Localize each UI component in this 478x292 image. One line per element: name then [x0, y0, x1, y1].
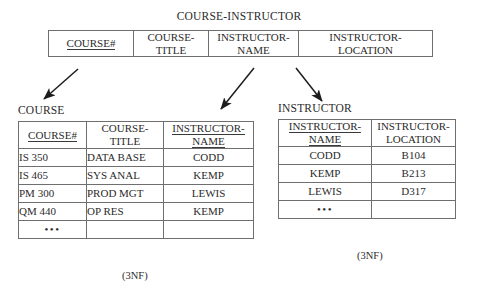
table-row-ellipsis: ••• [19, 221, 254, 239]
cell-instructor-name: KEMP [164, 203, 254, 221]
cell-course-title: SYS ANAL [87, 167, 164, 185]
instructor-attribute-instructor-name: INSTRUCTOR- NAME [279, 120, 372, 147]
cell-empty [164, 221, 254, 239]
cell-course-number: IS 465 [19, 167, 87, 185]
cell-course-title: OP RES [87, 203, 164, 221]
attribute-instructor-location: INSTRUCTOR- LOCATION [299, 31, 433, 57]
cell-ellipsis: ••• [19, 221, 87, 239]
table-row: IS 465 SYS ANAL KEMP [19, 167, 254, 185]
cell-instructor-name: LEWIS [279, 183, 372, 201]
cell-instructor-name: KEMP [164, 167, 254, 185]
table-row: PM 300 PROD MGT LEWIS [19, 185, 254, 203]
cell-instructor-name: CODD [164, 149, 254, 167]
course-attribute-course-number: COURSE# [19, 122, 87, 149]
table-row: KEMP B213 [279, 165, 456, 183]
cell-course-title: DATA BASE [87, 149, 164, 167]
cell-empty [87, 221, 164, 239]
table-row: QM 440 OP RES KEMP [19, 203, 254, 221]
cell-course-title: PROD MGT [87, 185, 164, 203]
cell-instructor-location: B213 [372, 165, 456, 183]
course-relation-title: COURSE [18, 104, 65, 116]
arrow-instructor-name-to-course [221, 68, 254, 109]
cell-course-number: PM 300 [19, 185, 87, 203]
course-relation-table: COURSE# COURSE- TITLE INSTRUCTOR- NAME I… [18, 121, 254, 239]
attribute-course-number: COURSE# [49, 31, 134, 57]
parent-relation-title: COURSE-INSTRUCTOR [0, 10, 478, 22]
cell-instructor-name: CODD [279, 147, 372, 165]
arrow-course-number-to-course [44, 69, 78, 99]
course-header-row: COURSE# COURSE- TITLE INSTRUCTOR- NAME [19, 122, 254, 149]
cell-instructor-location: D317 [372, 183, 456, 201]
cell-empty [372, 201, 456, 219]
instructor-attribute-instructor-location: INSTRUCTOR- LOCATION [372, 120, 456, 147]
course-attribute-course-title: COURSE- TITLE [87, 122, 164, 149]
attribute-instructor-name: INSTRUCTOR- NAME [209, 31, 299, 57]
instructor-relation-title: INSTRUCTOR [278, 102, 352, 114]
parent-relation-header-row: COURSE# COURSE- TITLE INSTRUCTOR- NAME I… [49, 31, 433, 57]
course-attribute-instructor-name: INSTRUCTOR- NAME [164, 122, 254, 149]
course-normal-form-caption: (3NF) [122, 270, 148, 281]
attribute-course-title: COURSE- TITLE [134, 31, 209, 57]
table-row-ellipsis: ••• [279, 201, 456, 219]
cell-course-number: IS 350 [19, 149, 87, 167]
cell-instructor-name: KEMP [279, 165, 372, 183]
instructor-relation-table: INSTRUCTOR- NAME INSTRUCTOR- LOCATION CO… [278, 119, 456, 219]
table-row: LEWIS D317 [279, 183, 456, 201]
table-row: IS 350 DATA BASE CODD [19, 149, 254, 167]
parent-relation-table: COURSE# COURSE- TITLE INSTRUCTOR- NAME I… [48, 30, 433, 57]
cell-instructor-location: B104 [372, 147, 456, 165]
instructor-header-row: INSTRUCTOR- NAME INSTRUCTOR- LOCATION [279, 120, 456, 147]
cell-instructor-name: LEWIS [164, 185, 254, 203]
arrow-instructor-name-to-instructor [296, 68, 322, 101]
instructor-normal-form-caption: (3NF) [357, 250, 383, 261]
diagram-canvas: COURSE-INSTRUCTOR COURSE# COURSE- TITLE … [0, 0, 478, 292]
table-row: CODD B104 [279, 147, 456, 165]
cell-ellipsis: ••• [279, 201, 372, 219]
cell-course-number: QM 440 [19, 203, 87, 221]
